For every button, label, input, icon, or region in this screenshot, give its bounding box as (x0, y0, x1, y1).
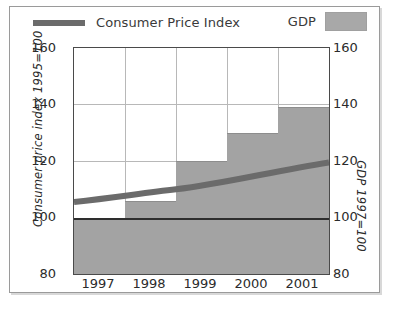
area-swatch-icon (325, 12, 367, 31)
xtick-2000: 2000 (226, 277, 276, 290)
xtick-1997: 1997 (73, 277, 123, 290)
legend-label-gdp: GDP (288, 14, 316, 29)
ytick-right-140: 140 (333, 97, 373, 110)
legend-item-gdp: GDP (288, 12, 367, 31)
ytick-right-80: 80 (333, 267, 373, 280)
legend-label-cpi: Consumer Price Index (96, 15, 240, 30)
legend-item-cpi: Consumer Price Index (33, 15, 240, 30)
chart-legend: Consumer Price Index GDP (10, 7, 379, 37)
xtick-1998: 1998 (124, 277, 174, 290)
chart-figure: Consumer Price Index GDP 160 140 120 100… (9, 6, 380, 293)
xtick-2001: 2001 (277, 277, 327, 290)
xtick-1999: 1999 (175, 277, 225, 290)
y-axis-title-left: Consumer price index 1995=100 (31, 77, 45, 227)
ytick-left-80: 80 (16, 267, 56, 280)
plot-area (73, 47, 330, 275)
cpi-line-series (74, 48, 329, 274)
ytick-right-160: 160 (333, 41, 373, 54)
line-swatch-icon (33, 20, 85, 26)
y-axis-title-right: GDP 1997=100 (354, 146, 368, 266)
